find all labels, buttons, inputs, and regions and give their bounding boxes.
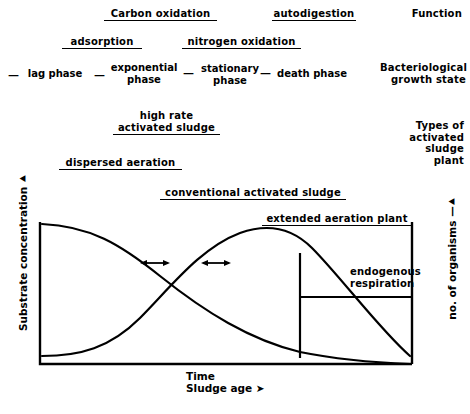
figure-root: Carbon oxidation autodigestion Function … xyxy=(0,0,470,414)
plot-canvas xyxy=(0,0,470,414)
curve-number-of-organisms xyxy=(42,228,410,356)
axis-frame-left-bottom xyxy=(40,222,412,364)
curve-substrate-concentration xyxy=(42,224,410,364)
crossover-arrow-right-icon xyxy=(201,260,231,266)
